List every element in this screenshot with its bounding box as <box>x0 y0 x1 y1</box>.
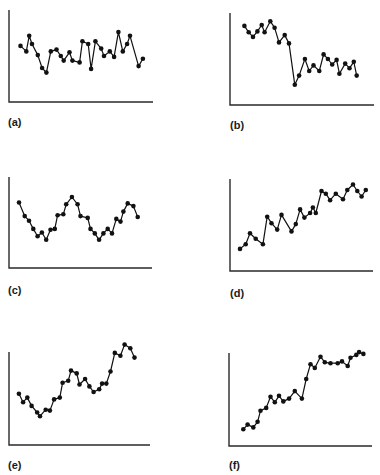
data-point <box>77 60 82 65</box>
data-point <box>58 395 63 400</box>
data-point <box>60 380 65 385</box>
data-point <box>104 381 109 386</box>
data-point <box>85 216 90 221</box>
data-point <box>64 202 69 207</box>
data-point <box>319 189 324 194</box>
data-point <box>36 53 41 58</box>
data-point <box>297 73 302 78</box>
data-point <box>49 49 54 54</box>
data-point <box>114 217 119 222</box>
data-point <box>132 355 137 360</box>
data-point <box>18 44 23 49</box>
data-point <box>275 227 280 232</box>
data-point <box>69 368 74 373</box>
data-point <box>354 73 359 78</box>
data-point <box>78 214 83 219</box>
data-point <box>40 66 45 71</box>
panel-label-e: (e) <box>8 460 21 471</box>
data-point <box>89 67 94 72</box>
data-point <box>128 34 133 39</box>
data-point <box>268 19 273 24</box>
data-point <box>44 70 49 75</box>
data-point <box>269 221 274 226</box>
data-point <box>121 209 126 214</box>
panel-label-d: (d) <box>230 288 244 299</box>
data-point <box>59 54 64 59</box>
data-point <box>83 377 88 382</box>
data-point <box>277 40 282 45</box>
data-point <box>48 228 53 233</box>
data-point <box>265 214 270 219</box>
data-point <box>88 227 93 232</box>
data-point <box>67 50 72 55</box>
line-chart-c <box>9 177 152 268</box>
data-point <box>318 354 323 359</box>
data-point <box>357 350 362 355</box>
data-point <box>238 247 243 252</box>
data-point <box>17 392 22 397</box>
data-point <box>328 198 333 203</box>
data-point <box>272 25 277 30</box>
chart-panel-c <box>9 177 152 268</box>
data-point <box>40 230 45 235</box>
data-point <box>343 61 348 66</box>
data-point <box>101 231 106 236</box>
data-point <box>242 24 247 29</box>
data-point <box>48 408 53 413</box>
data-point <box>347 66 352 71</box>
data-point <box>293 83 298 88</box>
data-point <box>74 371 79 376</box>
data-point <box>304 377 309 382</box>
data-point <box>251 425 256 430</box>
data-point <box>21 400 26 405</box>
data-point <box>86 42 91 47</box>
data-point <box>70 58 75 63</box>
data-point <box>131 204 136 209</box>
data-point <box>253 237 258 242</box>
data-point <box>341 197 346 202</box>
data-point <box>61 58 66 63</box>
data-point <box>135 215 140 220</box>
data-point <box>345 364 350 369</box>
data-point <box>351 182 356 187</box>
data-point <box>302 215 307 220</box>
data-point <box>259 23 264 28</box>
data-point <box>321 52 326 57</box>
chart-panel-b <box>230 13 374 105</box>
data-point <box>287 41 292 46</box>
line-chart-a <box>9 10 153 102</box>
data-point <box>91 390 96 395</box>
data-point <box>345 188 350 193</box>
data-point <box>243 242 248 247</box>
data-point <box>53 227 58 232</box>
data-point <box>314 211 319 216</box>
data-point <box>311 63 316 68</box>
data-point <box>116 30 121 35</box>
data-point <box>359 194 364 199</box>
data-point <box>300 396 305 401</box>
data-point <box>303 57 308 62</box>
data-point <box>121 49 126 54</box>
data-point <box>277 394 282 399</box>
panel-label-a: (a) <box>8 117 21 128</box>
data-point <box>255 29 260 34</box>
data-point <box>99 46 104 51</box>
data-point <box>87 384 92 389</box>
data-point <box>105 227 110 232</box>
panel-label-f: (f) <box>229 460 240 471</box>
data-point <box>364 188 369 193</box>
data-point <box>324 191 329 196</box>
data-point <box>348 355 353 360</box>
data-point <box>136 64 141 69</box>
data-point <box>112 55 117 60</box>
data-point <box>328 361 333 366</box>
data-point <box>80 39 85 44</box>
data-point <box>44 238 49 243</box>
data-point <box>108 49 113 54</box>
data-point <box>330 62 335 67</box>
data-point <box>287 396 292 401</box>
data-point <box>108 369 113 374</box>
data-point <box>282 33 287 38</box>
chart-panel-d <box>230 179 373 271</box>
data-point <box>38 414 43 419</box>
